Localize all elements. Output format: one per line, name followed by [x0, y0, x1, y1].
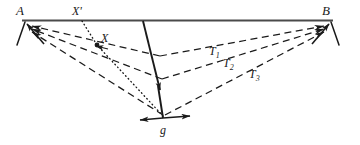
tension-line-t1-right — [160, 26, 324, 56]
label-gravity-g: g — [160, 124, 166, 136]
label-tension-t1: T1 — [209, 45, 220, 57]
tension-line-t3-right — [165, 32, 324, 115]
tension-line-t1-left — [32, 26, 160, 56]
label-tension-t2: T2 — [223, 57, 234, 69]
velocity-arrow-at-x — [96, 46, 108, 49]
label-vertex-a: A — [16, 4, 24, 17]
label-tension-t3-subscript: 3 — [256, 74, 260, 83]
label-tension-t2-symbol: T — [223, 56, 230, 70]
gravity-arrow-left — [140, 118, 163, 120]
label-tension-t2-subscript: 2 — [230, 63, 234, 72]
figure-canvas — [0, 0, 360, 145]
label-tension-t1-subscript: 1 — [216, 51, 220, 60]
anchor-tick-left — [17, 22, 25, 45]
gravity-arrow-right — [163, 116, 190, 118]
label-point-x-prime: X' — [72, 5, 82, 17]
tension-line-t2-right — [162, 29, 324, 79]
trajectory-dotted-path — [82, 21, 163, 116]
label-tension-t1-symbol: T — [209, 44, 216, 58]
label-point-x: X — [101, 32, 108, 44]
tension-line-t2-left — [32, 29, 162, 79]
label-tension-t3: T3 — [249, 68, 260, 80]
label-tension-t3-symbol: T — [249, 67, 256, 81]
label-vertex-b: B — [322, 4, 330, 17]
physics-figure: A B X' X T1 T2 T3 g — [0, 0, 360, 145]
anchor-tick-right — [331, 22, 339, 45]
